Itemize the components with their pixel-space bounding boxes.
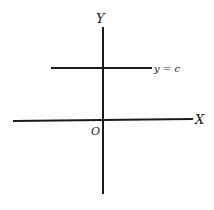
line-label: y = c	[153, 63, 180, 74]
y-axis-label: Y	[96, 11, 106, 26]
x-axis-label: X	[194, 112, 205, 127]
origin-label: O	[91, 125, 100, 138]
coordinate-diagram: Y y = c O X	[0, 0, 214, 210]
background	[0, 0, 214, 210]
